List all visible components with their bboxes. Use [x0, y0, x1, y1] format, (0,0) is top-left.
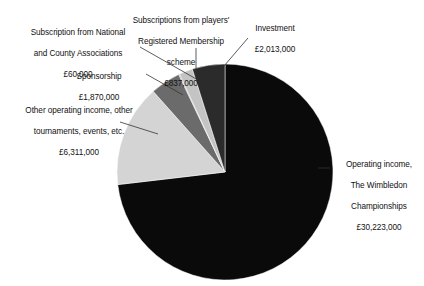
label-operating-value: £30,223,000	[357, 223, 402, 232]
label-investment: Investment £2,013,000	[232, 14, 318, 56]
label-players-line1: Subscriptions from players'	[133, 16, 230, 25]
label-national-line1: Subscription from National	[31, 28, 126, 37]
label-operating-line3: Championships	[351, 202, 407, 211]
label-investment-value: £2,013,000	[255, 45, 295, 54]
label-operating-line2: The Wimbledon	[351, 181, 408, 190]
label-players-line3: scheme	[167, 58, 195, 67]
label-players-line2: Registered Membership	[138, 37, 224, 46]
label-operating-income-wimbledon: Operating income, The Wimbledon Champion…	[336, 150, 422, 233]
label-players-value: £837,000	[164, 79, 198, 88]
label-other-line1: Other operating income, other	[25, 106, 132, 115]
label-investment-line1: Investment	[255, 24, 295, 33]
label-operating-line1: Operating income,	[346, 160, 412, 169]
label-other-operating-income: Other operating income, other tournament…	[2, 96, 156, 158]
label-other-value: £6,311,000	[59, 148, 99, 157]
pie-chart-figure: Subscription from National and County As…	[0, 0, 424, 286]
label-national-line2: and County Associations	[34, 49, 123, 58]
label-sponsorship-line1: Sponsorship	[77, 72, 122, 81]
label-other-line2: tournaments, events, etc.	[34, 127, 125, 136]
